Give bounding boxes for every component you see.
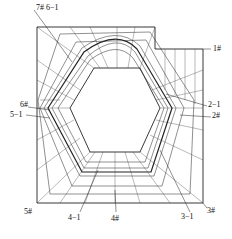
label-7-6-1: 7# 6−1 <box>36 4 59 12</box>
label-3: 3# <box>207 207 215 215</box>
label-6: 6# <box>20 101 28 109</box>
mesh-svg <box>0 0 232 239</box>
label-4-1: 4−1 <box>68 214 81 222</box>
mesh-diagram: 7# 6−1 1# 2−1 2# 6# 5−1 5# 4−1 4# 3−1 3# <box>0 0 232 239</box>
label-1: 1# <box>213 45 221 53</box>
label-5-1: 5−1 <box>10 111 23 119</box>
label-5: 5# <box>24 208 32 216</box>
label-2: 2# <box>212 112 220 120</box>
label-3-1: 3−1 <box>181 213 194 221</box>
label-2-1: 2−1 <box>208 101 221 109</box>
label-4: 4# <box>111 215 119 223</box>
